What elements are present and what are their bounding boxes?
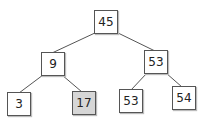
tree-node-right-left: 53 bbox=[119, 89, 143, 113]
edge-9-3 bbox=[19, 75, 43, 93]
tree-node-right-right: 54 bbox=[172, 86, 196, 110]
edge-45-53 bbox=[116, 32, 155, 51]
tree-node-left: 9 bbox=[41, 52, 65, 76]
tree-node-root: 45 bbox=[94, 10, 118, 34]
tree-node-right: 53 bbox=[144, 50, 168, 74]
edge-53-53 bbox=[131, 73, 147, 90]
tree-node-left-right-highlighted: 17 bbox=[72, 91, 96, 115]
edge-53-54 bbox=[166, 73, 182, 87]
edge-9-17 bbox=[62, 75, 82, 92]
edge-45-9 bbox=[52, 32, 97, 53]
tree-node-left-left: 3 bbox=[7, 92, 31, 116]
